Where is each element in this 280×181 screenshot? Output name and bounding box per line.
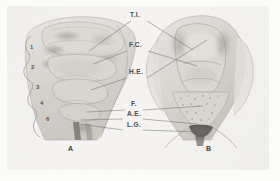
figure-b-artwork <box>146 16 253 148</box>
anatomical-artwork <box>7 6 269 170</box>
plate-frame: T.I. F.C. H.E. F. A.E. L.G. 1 2 3 4 6 A … <box>7 6 269 170</box>
figure-a-artwork <box>24 17 136 140</box>
figure-plate: T.I. F.C. H.E. F. A.E. L.G. 1 2 3 4 6 A … <box>0 0 280 181</box>
